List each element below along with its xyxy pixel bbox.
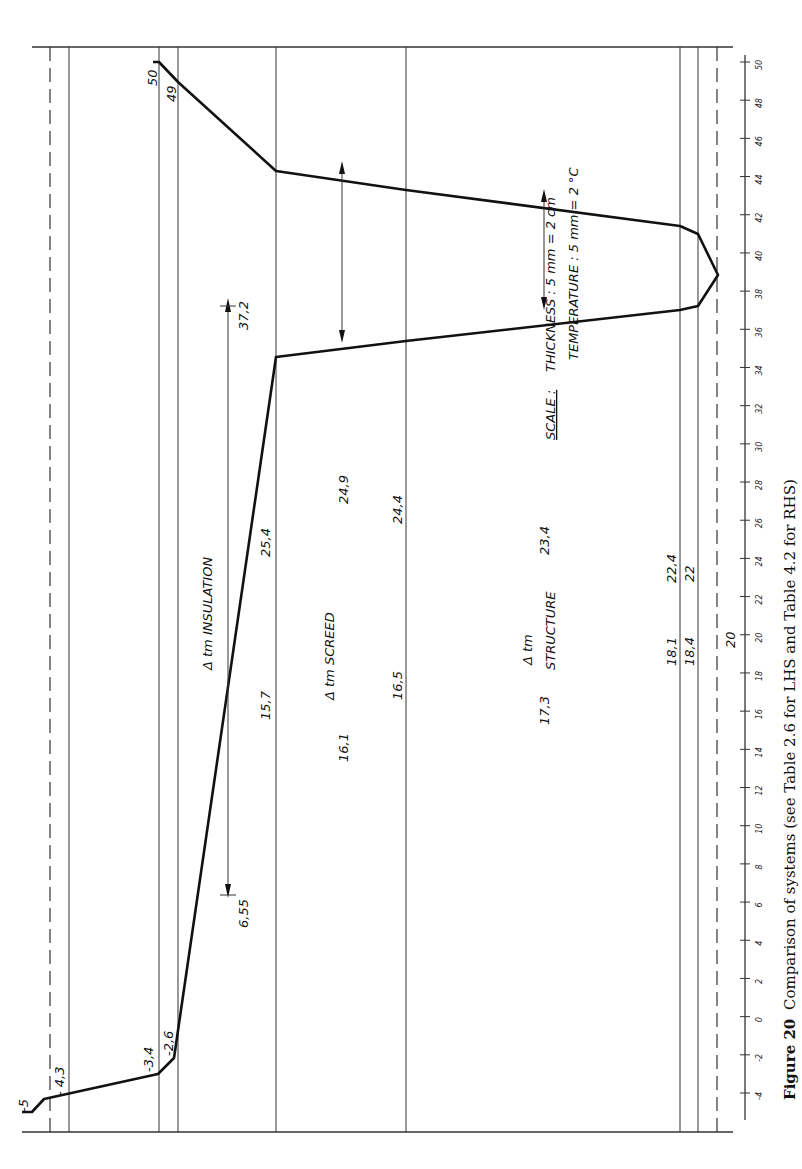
scale-temperature: TEMPERATURE : 5 mm = 2 °C: [566, 166, 581, 360]
axis-tick-label: 2: [755, 979, 764, 984]
structure-annotation-top: Δ tm: [520, 634, 535, 666]
figure-caption-text: Comparison of systems (see Table 2.6 for…: [781, 479, 799, 1010]
axis-tick-label: 28: [755, 480, 764, 490]
label-50: 50: [145, 69, 160, 86]
arrow-head-icon: [339, 161, 345, 174]
label-224: 22,4: [664, 554, 679, 583]
label-20: 20: [723, 631, 738, 648]
label-244: 24,4: [390, 495, 405, 524]
label-49: 49: [164, 85, 179, 102]
axis-tick-label: 38: [755, 289, 764, 299]
label-minus5: -5: [16, 1099, 31, 1112]
axis-tick-label: 18: [755, 671, 764, 681]
label-254: 25,4: [258, 528, 273, 557]
label-minus34: -3,4: [141, 1047, 156, 1072]
axis-tick-label: 30: [755, 442, 764, 452]
scale-thickness: THICKNESS : 5 mm = 2 cm: [543, 197, 558, 372]
axis-tick-label: 22: [755, 594, 764, 604]
arrow-head-icon: [339, 330, 345, 343]
label-173: 17,3: [537, 696, 552, 725]
axis-ticks: 5048464442403836343230282624222018161412…: [740, 60, 764, 1100]
axis-tick-label: 32: [755, 404, 764, 414]
label-249: 24,9: [336, 475, 351, 504]
label-22: 22: [682, 565, 697, 582]
screed-annotation: Δ tm SCREED: [322, 612, 337, 701]
axis-tick-label: 46: [755, 136, 764, 146]
structure-annotation-bottom: STRUCTURE: [543, 591, 558, 670]
insulation-annotation: Δ tm INSULATION: [200, 557, 215, 671]
temperature-profile-line: [22, 62, 718, 1112]
axis-tick-label: 0: [755, 1017, 764, 1022]
label-184: 18,4: [682, 637, 697, 666]
label-165: 16,5: [390, 671, 405, 700]
axis-tick-label: 50: [755, 60, 764, 70]
axis-tick-label: 16: [755, 709, 764, 719]
axis-tick-label: 14: [755, 747, 764, 757]
axis-tick-label: 24: [755, 556, 764, 566]
axis-tick-label: 20: [755, 633, 764, 643]
axis-tick-label: 34: [755, 365, 764, 375]
label-181: 18,1: [664, 637, 679, 666]
axis-tick-label: 42: [755, 213, 764, 223]
label-157: 15,7: [258, 690, 273, 720]
axis-tick-label: 10: [755, 824, 764, 834]
axis-tick-label: 44: [755, 174, 764, 184]
axis-tick-label: 6: [755, 903, 764, 908]
temperature-profile-diagram: 5048464442403836343230282624222018161412…: [0, 0, 802, 1169]
arrow-head-icon: [225, 298, 231, 312]
figure-caption-label: Figure 20: [781, 1019, 799, 1100]
label-372: 37,2: [236, 301, 251, 330]
axis-tick-label: 8: [755, 864, 764, 869]
label-minus26: -2,6: [161, 1031, 176, 1056]
axis-tick-label: 4: [755, 941, 764, 946]
arrow-head-icon: [225, 884, 231, 898]
axis-tick-label: 26: [755, 518, 764, 528]
axis-tick-label: -2: [755, 1054, 764, 1062]
label-minus43: - 4,3: [52, 1067, 67, 1097]
axis-tick-label: 36: [755, 327, 764, 337]
axis-tick-label: -4: [755, 1092, 764, 1100]
label-161: 16,1: [336, 733, 351, 762]
axis-tick-label: 12: [755, 785, 764, 795]
label-234: 23,4: [537, 526, 552, 555]
axis-tick-label: 40: [755, 251, 764, 261]
axis-tick-label: 48: [755, 98, 764, 108]
label-655: 6,55: [236, 899, 251, 928]
scale-title: SCALE :: [543, 390, 558, 440]
